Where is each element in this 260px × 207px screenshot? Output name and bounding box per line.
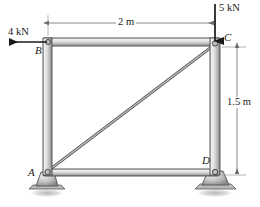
- joint-label-b: B: [35, 45, 42, 56]
- frame-diagram-figure: 4 kN 5 kN 2 m 1.5 m A B C D: [0, 0, 260, 207]
- member-bottom-chord-AD: [44, 169, 218, 176]
- member-top-chord-BC: [44, 38, 218, 46]
- force-label-5kn: 5 kN: [219, 3, 240, 14]
- member-diagonal-AC: [43, 40, 219, 176]
- joint-pin-c: [212, 41, 217, 46]
- joint-label-a: A: [28, 167, 35, 178]
- joint-pin-d: [212, 169, 217, 174]
- dimension-label-1-5m: 1.5 m: [225, 97, 253, 108]
- joint-pin-a: [45, 169, 50, 174]
- force-label-4kn: 4 kN: [8, 27, 29, 38]
- ground-shadow-a: [30, 189, 64, 197]
- joint-label-d: D: [202, 155, 210, 166]
- joint-label-c: C: [224, 32, 231, 43]
- dimension-label-2m: 2 m: [116, 17, 136, 28]
- ground-shadow-d: [196, 189, 234, 197]
- member-left-column-AB: [43, 38, 52, 175]
- dimension-vertical-height: [222, 47, 246, 175]
- frame-diagram-canvas: [0, 0, 260, 207]
- member-right-column-CD: [210, 38, 220, 175]
